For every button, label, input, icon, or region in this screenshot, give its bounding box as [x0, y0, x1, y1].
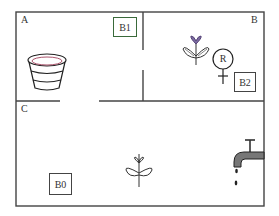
box-b1: B1	[113, 17, 137, 37]
room-c-label: C	[21, 104, 28, 114]
bucket-icon	[28, 54, 66, 90]
faucet-icon	[234, 140, 264, 185]
box-b0: B0	[49, 173, 72, 195]
box-b2: B2	[234, 72, 256, 92]
robot-label: R	[213, 54, 233, 64]
room-a-label: A	[21, 15, 28, 25]
plant-icon	[183, 36, 209, 65]
room-b-label: B	[251, 15, 258, 25]
plant-icon	[126, 154, 152, 187]
floor-plan	[0, 0, 279, 216]
